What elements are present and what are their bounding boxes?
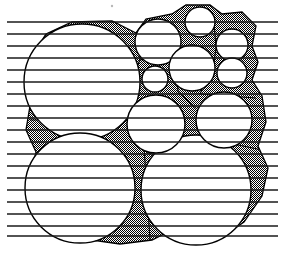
stray-speck bbox=[111, 5, 113, 7]
circle-packing-figure bbox=[0, 0, 285, 255]
circle-med-right bbox=[196, 92, 252, 148]
circle-small-edge-lower bbox=[217, 58, 247, 88]
circle-med-mid-right bbox=[169, 45, 215, 91]
circle-med-center bbox=[127, 95, 185, 153]
packing-diagram-svg bbox=[0, 0, 285, 255]
